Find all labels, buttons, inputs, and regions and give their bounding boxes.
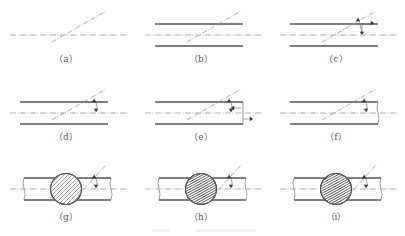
panel-e: （e） bbox=[145, 89, 263, 142]
panel-label: （b） bbox=[189, 54, 213, 64]
figure-diagram: （a）（b）（c）（d）（e）（f）（g）（h）（i） bbox=[0, 0, 405, 236]
angle-arrow-bottom bbox=[94, 109, 98, 112]
lay-line bbox=[52, 11, 106, 42]
angle-arrow-bottom bbox=[229, 185, 233, 188]
lay-line bbox=[213, 165, 241, 196]
lay-line bbox=[187, 11, 241, 42]
panel-label: （i） bbox=[326, 212, 347, 222]
lay-line bbox=[348, 165, 376, 196]
lay-line bbox=[187, 89, 241, 120]
angle-arrow-bottom bbox=[364, 185, 368, 188]
panel-label: （f） bbox=[325, 132, 346, 142]
radial-force-arrow bbox=[360, 32, 364, 35]
panel-label: （d） bbox=[54, 132, 78, 142]
axial-force-arrow-right bbox=[250, 117, 253, 121]
figure-caption-faint bbox=[152, 229, 256, 232]
panel-label: （h） bbox=[189, 212, 213, 222]
lay-line bbox=[78, 165, 106, 196]
lay-line bbox=[52, 89, 106, 120]
normal-force-arrow bbox=[356, 18, 360, 21]
panel-c: （c） bbox=[280, 11, 398, 64]
panel-a: （a） bbox=[10, 11, 128, 64]
panel-g: （g） bbox=[6, 165, 128, 222]
lay-line bbox=[322, 11, 376, 42]
panel-i: （i） bbox=[280, 157, 398, 222]
lay-line bbox=[322, 89, 376, 120]
panel-b: （b） bbox=[145, 11, 263, 64]
panel-label: （c） bbox=[324, 54, 347, 64]
panel-label: （e） bbox=[189, 132, 212, 142]
panel-f: （f） bbox=[280, 89, 398, 142]
panel-label: （a） bbox=[54, 54, 77, 64]
panel-label: （g） bbox=[54, 212, 78, 222]
angle-arrow-bottom bbox=[364, 109, 368, 112]
angle-arrow-bottom bbox=[229, 109, 233, 112]
panel-h: （h） bbox=[145, 157, 263, 222]
angle-arrow-bottom bbox=[94, 185, 98, 188]
panel-d: （d） bbox=[10, 89, 128, 142]
